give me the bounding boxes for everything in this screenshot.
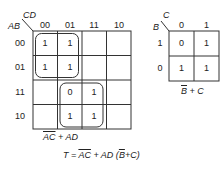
result-term: + AD — [56, 132, 78, 142]
kmap-cell: 1 — [169, 64, 194, 73]
col-header: 11 — [82, 21, 106, 30]
col-variable-label: CD — [23, 11, 36, 20]
kmap2-result: B + C — [181, 87, 204, 96]
row-header: 01 — [11, 63, 29, 72]
kmap-cell: 1 — [82, 112, 106, 121]
kmap-cell: 1 — [194, 64, 219, 73]
col-header: 01 — [58, 21, 82, 30]
row-header: 0 — [153, 64, 167, 73]
expr-prefix: T = — [63, 150, 78, 160]
kmap-cell: 1 — [58, 112, 82, 121]
expr-term-negated: AC — [78, 150, 91, 160]
row-header: 00 — [11, 39, 29, 48]
kmap-cell: 1 — [33, 63, 57, 72]
result-term: + C — [187, 86, 204, 96]
result-term-negated: AC — [43, 132, 56, 142]
expr-middle: + AD ( — [91, 150, 119, 160]
row-variable-label: B — [153, 23, 159, 32]
col-header: 00 — [33, 21, 57, 30]
kmap-cell: 0 — [169, 39, 194, 48]
kmap-cell: 0 — [58, 88, 82, 97]
kmap-cell: 1 — [82, 88, 106, 97]
col-variable-label: C — [163, 11, 170, 20]
expr-suffix: +C) — [125, 150, 140, 160]
col-header: 10 — [107, 21, 131, 30]
kmap-cell: 1 — [33, 39, 57, 48]
col-header: 1 — [194, 21, 219, 30]
row-header: 11 — [11, 88, 29, 97]
col-header: 0 — [169, 21, 194, 30]
row-header: 10 — [11, 112, 29, 121]
kmap4-result: AC + AD — [43, 133, 78, 142]
final-expression: T = AC + AD (B+C) — [63, 151, 140, 160]
kmap-cell: 1 — [58, 39, 82, 48]
kmap-cell: 1 — [58, 63, 82, 72]
row-variable-label: AB — [8, 22, 20, 31]
row-header: 1 — [153, 39, 167, 48]
kmap-cell: 1 — [194, 39, 219, 48]
